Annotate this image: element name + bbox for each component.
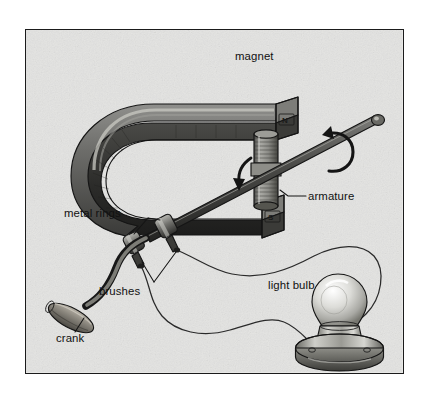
label-crank: crank — [56, 332, 85, 344]
label-metal-rings: metal rings — [64, 207, 121, 219]
label-armature: armature — [308, 190, 354, 202]
label-light-bulb: light bulb — [268, 279, 315, 291]
brush-right-contact — [174, 247, 180, 252]
south-pole-letter: S — [268, 213, 274, 222]
diagram-frame: N S — [25, 29, 404, 374]
shaft-knob-highlight — [374, 117, 379, 121]
north-pole-letter: N — [282, 116, 288, 125]
figure-root: N S — [0, 0, 428, 402]
label-magnet: magnet — [235, 50, 274, 62]
shaft-knob — [372, 115, 385, 126]
label-brushes: brushes — [99, 285, 140, 297]
generator-diagram: N S — [26, 30, 402, 372]
